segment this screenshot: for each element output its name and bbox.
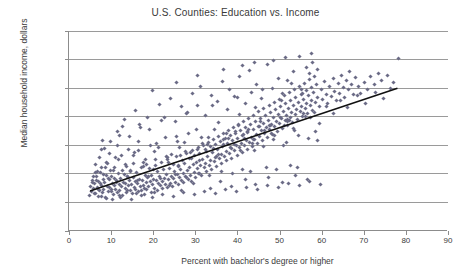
gridline-horizontal bbox=[69, 173, 448, 174]
gridline-horizontal bbox=[69, 88, 448, 89]
x-tick-mark bbox=[280, 231, 281, 235]
chart-title: U.S. Counties: Education vs. Income bbox=[0, 7, 471, 18]
x-tick-label: 10 bbox=[91, 236, 131, 245]
axis-tick-layer bbox=[69, 31, 448, 231]
y-axis-title: Median household income, dollars bbox=[19, 0, 29, 183]
x-tick-label: 50 bbox=[260, 236, 300, 245]
x-tick-label: 70 bbox=[344, 236, 384, 245]
x-tick-mark bbox=[322, 231, 323, 235]
y-tick-mark bbox=[65, 202, 69, 203]
gridline-horizontal bbox=[69, 59, 448, 60]
x-tick-mark bbox=[69, 231, 70, 235]
gridline-horizontal bbox=[69, 31, 448, 32]
y-tick-mark bbox=[65, 59, 69, 60]
x-tick-label: 90 bbox=[428, 236, 468, 245]
x-tick-mark bbox=[153, 231, 154, 235]
gridline-horizontal bbox=[69, 202, 448, 203]
x-axis-title: Percent with bachelor's degree or higher bbox=[68, 256, 447, 266]
gridline-horizontal bbox=[69, 145, 448, 146]
y-tick-mark bbox=[65, 173, 69, 174]
x-tick-mark bbox=[195, 231, 196, 235]
x-tick-label: 60 bbox=[302, 236, 342, 245]
x-tick-mark bbox=[237, 231, 238, 235]
x-tick-mark bbox=[111, 231, 112, 235]
x-tick-label: 80 bbox=[386, 236, 426, 245]
plot-area: 020,00040,00060,00080,000100,000120,0001… bbox=[68, 31, 447, 231]
x-tick-label: 40 bbox=[217, 236, 257, 245]
x-tick-label: 20 bbox=[133, 236, 173, 245]
gridline-horizontal bbox=[69, 116, 448, 117]
y-tick-mark bbox=[65, 145, 69, 146]
x-tick-label: 0 bbox=[49, 236, 89, 245]
x-tick-mark bbox=[364, 231, 365, 235]
x-tick-label: 30 bbox=[175, 236, 215, 245]
y-tick-mark bbox=[65, 116, 69, 117]
y-tick-mark bbox=[65, 31, 69, 32]
y-tick-mark bbox=[65, 88, 69, 89]
chart-figure: U.S. Counties: Education vs. Income Medi… bbox=[0, 0, 471, 275]
x-tick-mark bbox=[406, 231, 407, 235]
x-tick-mark bbox=[448, 231, 449, 235]
